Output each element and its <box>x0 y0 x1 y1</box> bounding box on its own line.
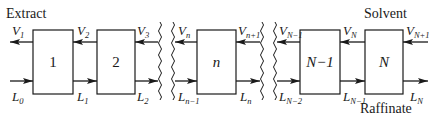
vapor-label-N+1: VN+1 <box>406 23 430 40</box>
stage-label: n <box>213 54 221 70</box>
raffinate-label: Raffinate <box>360 101 412 116</box>
liquid-label-n−1: Ln−1 <box>177 89 199 106</box>
break-line-4 <box>274 22 277 100</box>
vapor-label-N−1: VN−1 <box>279 23 303 40</box>
vapor-label-2: V2 <box>77 23 90 40</box>
stage-label: 2 <box>112 54 120 70</box>
vapor-label-n+1: Vn+1 <box>238 23 260 40</box>
vapor-label-3: V3 <box>137 23 149 40</box>
solvent-label: Solvent <box>364 6 407 21</box>
liquid-label-2: L2 <box>136 89 149 106</box>
break-line-2 <box>172 22 175 100</box>
countercurrent-cascade-diagram: Extract Solvent Raffinate 12nN−1N V1V2V3… <box>0 0 437 119</box>
liquid-label-0: L0 <box>11 89 24 106</box>
liquid-label-N: LN <box>409 89 424 106</box>
liquid-label-N−1: LN−1 <box>342 89 366 106</box>
vapor-label-n: Vn <box>178 23 190 40</box>
break-line-3 <box>261 22 264 100</box>
liquid-label-N−2: LN−2 <box>278 89 303 106</box>
liquid-label-n: Ln <box>239 89 251 106</box>
stage-label: N <box>378 54 390 70</box>
liquid-label-1: L1 <box>76 89 88 106</box>
extract-label: Extract <box>6 6 47 21</box>
stage-label: 1 <box>49 54 57 70</box>
stage-label: N−1 <box>305 54 334 70</box>
break-line-1 <box>159 22 162 100</box>
vapor-label-N: VN <box>343 23 358 40</box>
vapor-label-1: V1 <box>12 23 24 40</box>
